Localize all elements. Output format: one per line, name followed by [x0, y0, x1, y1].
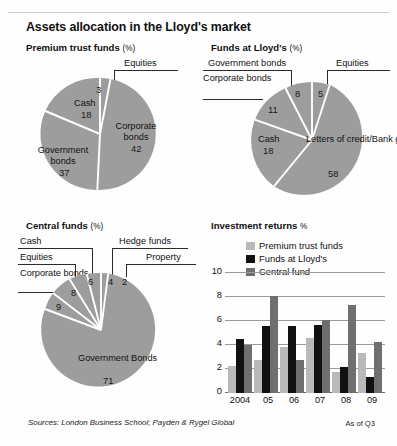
- pie1-value-government-bonds: 37: [59, 167, 69, 178]
- bar-07-premium-trust-funds: [306, 338, 314, 394]
- ytick-label-6: 6: [206, 314, 222, 324]
- pie3-value-hedge-funds: 4: [108, 276, 113, 287]
- pie1-leader-equities-horizontal: [114, 70, 178, 71]
- panel-unit-central: (%): [91, 222, 104, 231]
- legend-label-funds-at-lloyds: Funds at Lloyd's: [259, 253, 327, 264]
- page-title: Assets allocation in the Lloyd's market: [26, 20, 251, 34]
- panel-title-central-text: Central funds: [26, 220, 88, 231]
- bar-06-premium-trust-funds: [280, 347, 288, 393]
- pie3-value-property: 2: [122, 276, 127, 287]
- pie2-value-letters-of-credit: 58: [328, 168, 338, 179]
- panel-title-fal-text: Funds at Lloyd's: [211, 42, 287, 53]
- bar-09-premium-trust-funds: [358, 353, 366, 393]
- panel-title-investment-returns: Investment returns %: [211, 220, 307, 231]
- pie3-callout-property-label: Property: [146, 252, 181, 263]
- legend-label-premium-trust-funds: Premium trust funds: [259, 240, 343, 251]
- pie3-callout-equities-label: Equities: [20, 252, 53, 263]
- sources-note: Sources: London Business School; Payden …: [28, 418, 234, 427]
- bar-chart-investment-returns: 10 8 6 4 2 0: [206, 266, 392, 401]
- pie3-leader-hedge-horizontal: [112, 248, 188, 249]
- bar-09-funds-at-lloyds: [366, 377, 374, 394]
- pie2-callout-equities-label: Equities: [336, 58, 369, 69]
- bar-08-premium-trust-funds: [332, 372, 340, 393]
- pie2-value-cash: 18: [263, 145, 273, 156]
- bar-06-funds-at-lloyds: [288, 326, 296, 393]
- bar-05-funds-at-lloyds: [262, 326, 270, 393]
- xtick-label-09: 09: [357, 395, 387, 405]
- panel-title-funds-at-lloyds: Funds at Lloyd's (%): [211, 42, 302, 53]
- ytick-label-2: 2: [206, 362, 222, 372]
- pie1-value-equities: 3: [96, 84, 101, 95]
- panel-title-returns-text: Investment returns: [211, 220, 297, 231]
- bars-plot-area: [227, 266, 385, 393]
- panel-unit-premium: (%): [123, 44, 136, 53]
- pie1-value-cash: 18: [81, 109, 91, 120]
- panel-title-premium-trust-funds: Premium trust funds (%): [26, 42, 135, 53]
- legend-swatch-funds-at-lloyds: [246, 255, 255, 264]
- ytick-label-10: 10: [206, 266, 222, 276]
- infographic-canvas: Assets allocation in the Lloyd's market …: [0, 0, 397, 446]
- legend-swatch-premium-trust-funds: [246, 242, 255, 251]
- ytick-label-8: 8: [206, 290, 222, 300]
- pie3-leader-equities-horizontal: [18, 264, 76, 265]
- pie3-value-corporate-bonds: 9: [56, 301, 61, 312]
- bar-06-central-fund: [296, 360, 304, 393]
- pie3-callout-cash-label: Cash: [20, 236, 41, 247]
- pie1-callout-equities-label: Equities: [124, 58, 157, 69]
- pie1-label-corporate-bonds: Corporate bonds: [112, 121, 160, 142]
- as-of-note: As of Q3: [345, 419, 375, 428]
- pie2-leader-government-horizontal: [203, 70, 292, 71]
- pie2-label-cash: Cash: [258, 134, 279, 145]
- bar-05-premium-trust-funds: [254, 360, 262, 393]
- pie3-value-government-bonds: 71: [103, 375, 113, 386]
- bar-2004-central-fund: [244, 345, 252, 393]
- panel-unit-fal: (%): [290, 44, 303, 53]
- bar-09-central-fund: [374, 342, 382, 393]
- pie3-value-equities: 8: [71, 287, 76, 298]
- panel-title-central-funds: Central funds (%): [26, 220, 103, 231]
- bar-07-central-fund: [322, 320, 330, 393]
- pie2-leader-equities-horizontal: [327, 70, 390, 71]
- panel-unit-returns: %: [300, 222, 307, 231]
- panel-title-premium-text: Premium trust funds: [26, 42, 120, 53]
- pie3-value-cash: 6: [88, 276, 93, 287]
- pie3-label-government-bonds: Government Bonds: [78, 353, 136, 364]
- pie3-callout-hedge-funds-label: Hedge funds: [119, 236, 171, 247]
- pie1-value-corporate-bonds: 42: [131, 143, 141, 154]
- pie1-label-cash: Cash: [74, 98, 95, 109]
- pie2-value-government-bonds: 8: [295, 88, 300, 99]
- pie2-value-equities: 5: [318, 88, 323, 99]
- pie1-label-government-bonds: Government bonds: [31, 145, 95, 166]
- pie3-leader-cash-horizontal: [18, 248, 93, 249]
- bar-07-funds-at-lloyds: [314, 325, 322, 393]
- bar-2004-premium-trust-funds: [228, 366, 236, 393]
- ytick-label-0: 0: [206, 386, 222, 396]
- pie2-value-corporate-bonds: 11: [268, 104, 278, 115]
- bar-05-central-fund: [270, 296, 278, 393]
- bar-08-central-fund: [348, 305, 356, 394]
- bar-2004-funds-at-lloyds: [236, 339, 244, 393]
- bar-08-funds-at-lloyds: [340, 367, 348, 393]
- pie2-label-letters-of-credit: Letters of credit/Bank guarantee: [306, 134, 368, 145]
- ytick-label-4: 4: [206, 338, 222, 348]
- pie2-callout-government-bonds-label: Government bonds: [208, 58, 286, 69]
- top-divider: [8, 12, 389, 13]
- pie3-leader-property-horizontal: [126, 264, 196, 265]
